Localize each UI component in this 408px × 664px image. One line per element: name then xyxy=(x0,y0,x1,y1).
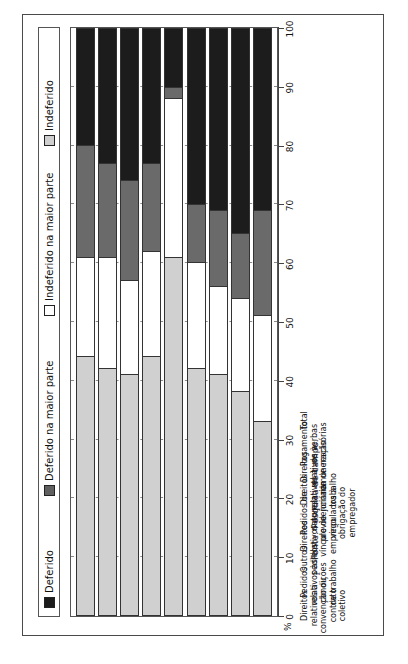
bar-segment xyxy=(254,316,271,421)
legend-swatch-icon xyxy=(44,135,55,146)
legend-swatch-icon xyxy=(44,485,55,496)
bar-segment xyxy=(121,281,138,375)
bar-segment xyxy=(165,88,182,100)
axis-tick xyxy=(278,146,284,147)
bar-segment xyxy=(99,29,116,164)
legend-swatch-icon xyxy=(44,597,55,608)
bar-segment xyxy=(188,29,205,205)
stacked-bar xyxy=(76,28,95,616)
legend-item-1: Deferido na maior parte xyxy=(44,361,55,496)
stacked-bar xyxy=(231,28,250,616)
bar-series-container xyxy=(71,28,277,616)
bar-segment xyxy=(232,299,249,393)
bar-segment xyxy=(143,29,160,164)
axis-tick xyxy=(278,263,284,264)
stacked-bar xyxy=(164,28,183,616)
bar-segment xyxy=(188,369,205,615)
axis-tick-label: 10 xyxy=(285,552,295,563)
bar-segment xyxy=(77,146,94,257)
axis-tick xyxy=(278,204,284,205)
bar-segment xyxy=(77,357,94,615)
bar-segment xyxy=(165,258,182,615)
bar-segment xyxy=(77,29,94,146)
bar-row xyxy=(76,28,95,616)
axis-tick-label: 50 xyxy=(285,317,295,328)
bar-segment xyxy=(99,369,116,615)
bar-segment xyxy=(99,258,116,369)
axis-tick-label: 20 xyxy=(285,494,295,505)
bar-segment xyxy=(232,29,249,234)
axis-tick xyxy=(278,498,284,499)
axis-tick xyxy=(278,557,284,558)
legend-label: Deferido xyxy=(44,550,55,593)
bar-row xyxy=(120,28,139,616)
axis-tick-label: 40 xyxy=(285,376,295,387)
axis-tick-label: 60 xyxy=(285,258,295,269)
axis-tick xyxy=(278,87,284,88)
figure-page: (Rio de Janeiro, 1995-2000) DeferidoDefe… xyxy=(0,0,408,664)
axis-tick-label: 0 xyxy=(285,614,295,620)
legend-label: Indeferido xyxy=(44,80,55,131)
axis-unit-label: % xyxy=(283,622,293,631)
stacked-bar xyxy=(209,28,228,616)
axis-tick xyxy=(278,440,284,441)
bar-segment xyxy=(254,211,271,316)
bar-segment xyxy=(143,357,160,615)
chart-canvas: DeferidoDeferido na maior parteIndeferid… xyxy=(36,22,336,622)
chart-legend: DeferidoDeferido na maior parteIndeferid… xyxy=(38,27,60,617)
bar-segment xyxy=(121,29,138,181)
bar-segment xyxy=(210,211,227,287)
stacked-bar xyxy=(142,28,161,616)
legend-label: Deferido na maior parte xyxy=(44,361,55,481)
plot-area xyxy=(70,27,278,617)
bar-row xyxy=(253,28,272,616)
bar-segment xyxy=(165,29,182,88)
category-label: Total xyxy=(300,383,310,459)
stacked-bar xyxy=(253,28,272,616)
bar-segment xyxy=(165,99,182,257)
bar-segment xyxy=(210,287,227,375)
bar-segment xyxy=(254,29,271,211)
source-note: Fonte: Pesquisa de campo. xyxy=(310,370,320,560)
axis-tick xyxy=(278,616,284,617)
value-axis: % 0102030405060708090100 xyxy=(278,27,296,617)
bar-segment xyxy=(77,258,94,358)
bar-row xyxy=(187,28,206,616)
axis-tick-label: 90 xyxy=(285,82,295,93)
bar-segment xyxy=(99,164,116,258)
bar-row xyxy=(231,28,250,616)
bar-segment xyxy=(121,181,138,281)
bar-row xyxy=(142,28,161,616)
bar-segment xyxy=(188,205,205,264)
bar-segment xyxy=(210,29,227,211)
axis-tick-label: 30 xyxy=(285,435,295,446)
bar-segment xyxy=(254,422,271,615)
stacked-bar xyxy=(120,28,139,616)
stacked-bar xyxy=(187,28,206,616)
legend-swatch-icon xyxy=(44,305,55,316)
legend-label: Indeferido na maior parte xyxy=(44,173,55,301)
bar-segment xyxy=(188,263,205,368)
bar-segment xyxy=(232,392,249,615)
bar-segment xyxy=(143,252,160,357)
axis-tick-label: 100 xyxy=(285,20,295,37)
stacked-bar xyxy=(98,28,117,616)
bar-segment xyxy=(210,375,227,615)
axis-tick xyxy=(278,28,284,29)
bar-segment xyxy=(143,164,160,252)
legend-item-3: Indeferido xyxy=(44,80,55,146)
bar-row xyxy=(209,28,228,616)
axis-tick-label: 80 xyxy=(285,141,295,152)
bar-row xyxy=(164,28,183,616)
bar-segment xyxy=(232,234,249,298)
axis-tick xyxy=(278,381,284,382)
axis-tick-label: 70 xyxy=(285,200,295,211)
bar-row xyxy=(98,28,117,616)
legend-item-0: Deferido xyxy=(44,550,55,608)
bar-segment xyxy=(121,375,138,615)
axis-tick xyxy=(278,322,284,323)
legend-item-2: Indeferido na maior parte xyxy=(44,173,55,316)
